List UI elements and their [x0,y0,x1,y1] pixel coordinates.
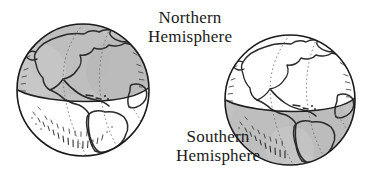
figure-canvas: Northern Hemisphere Southern Hemisphere [0,0,371,183]
southern-hemisphere-label-line1: Southern [176,127,260,146]
left-globe [14,15,150,156]
northern-hemisphere-label: Northern Hemisphere [148,8,232,46]
southern-hemisphere-label: Southern Hemisphere [176,127,260,165]
northern-hemisphere-label-line1: Northern [148,8,232,27]
northern-hemisphere-label-line2: Hemisphere [148,27,232,46]
southern-hemisphere-label-line2: Hemisphere [176,146,260,165]
